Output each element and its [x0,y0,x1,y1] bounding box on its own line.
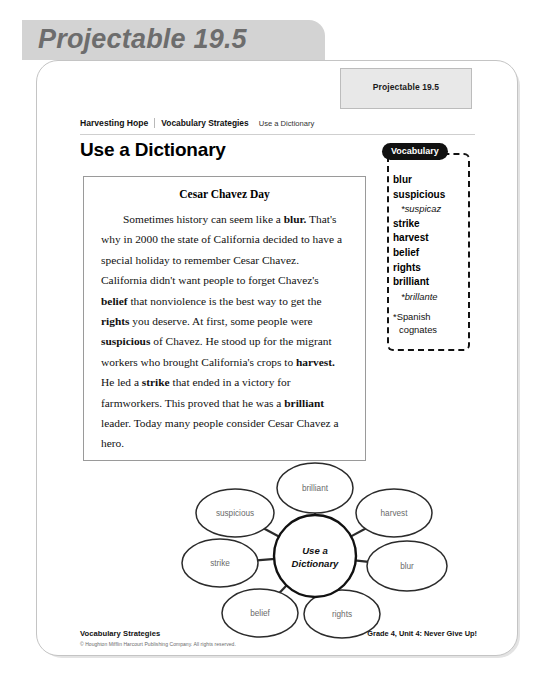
passage-vocab-term: suspicious [101,335,150,347]
word-web-connector [350,528,366,537]
passage-box: Cesar Chavez Day Sometimes history can s… [83,176,366,461]
word-web-connector [257,559,275,560]
vocabulary-word-list: blursuspicious*suspicazstrikeharvestbeli… [393,173,473,304]
vocabulary-footnote-line2: cognates [393,324,437,337]
vocabulary-word: suspicious [393,188,473,203]
vocabulary-cognate: *brillante [393,290,473,305]
banner-title: Projectable 19.5 [38,24,247,55]
word-web-center-label-line1: Use a [302,545,328,556]
word-web-node[interactable]: suspicious [196,489,274,537]
word-web-center-node[interactable]: Use aDictionary [274,515,356,597]
vocabulary-footnote: *Spanish cognates [393,311,437,336]
breadcrumb-item-topic[interactable]: Use a Dictionary [255,119,315,128]
passage-vocab-term: strike [142,376,170,388]
vocabulary-pill-label: Vocabulary [382,143,448,160]
passage-vocab-term: brilliant [284,397,324,409]
page-title: Use a Dictionary [80,139,226,161]
vocabulary-word: strike [393,217,473,232]
passage-vocab-term: rights [101,315,129,327]
word-web-node-label: rights [332,610,352,619]
projectable-banner: Projectable 19.5 [22,20,325,60]
breadcrumb-item-strategy[interactable]: Vocabulary Strategies [155,118,254,128]
projectable-tab-label: Projectable 19.5 [341,82,471,92]
footer-title: Vocabulary Strategies [80,629,236,638]
vocabulary-word: harvest [393,231,473,246]
projectable-tab: Projectable 19.5 [340,68,472,109]
word-web-node-label: harvest [381,509,409,518]
passage-vocab-term: harvest. [296,356,335,368]
breadcrumb-item-lesson[interactable]: Harvesting Hope [80,118,154,128]
passage-title: Cesar Chavez Day [101,188,348,200]
passage-text-run: leader. Today many people consider Cesar… [101,417,338,449]
passage-text-run: you deserve. At first, some people were [129,315,312,327]
word-web-node[interactable]: brilliant [277,463,353,513]
vocabulary-word: brilliant [393,275,473,290]
footer-copyright: © Houghton Mifflin Harcourt Publishing C… [80,641,236,647]
passage-vocab-term: belief [101,295,128,307]
word-web-node[interactable]: strike [182,539,258,587]
word-web-node-label: belief [250,609,270,618]
word-web-connector [263,528,279,537]
word-web-node-label: suspicious [216,509,254,518]
breadcrumb: Harvesting Hope Vocabulary Strategies Us… [80,118,475,135]
word-web-svg: brilliantsuspiciousharveststrikeblurbeli… [157,456,457,641]
vocabulary-word: rights [393,261,473,276]
word-web-center-circle [274,515,356,597]
word-web-center-label-line2: Dictionary [292,558,340,569]
footer-left: Vocabulary Strategies © Houghton Mifflin… [80,629,236,647]
vocabulary-footnote-line1: *Spanish [393,311,437,324]
word-web-diagram: brilliantsuspiciousharveststrikeblurbeli… [157,456,457,641]
word-web-node-label: blur [400,562,414,571]
vocabulary-word: blur [393,173,473,188]
word-web-node[interactable]: harvest [356,489,432,537]
vocabulary-panel: Vocabulary blursuspicious*suspicazstrike… [382,143,474,358]
word-web-node[interactable]: blur [367,541,447,591]
vocabulary-cognate: *suspicaz [393,202,473,217]
vocabulary-word: belief [393,246,473,261]
word-web-node-label: strike [210,559,230,568]
passage-body: Sometimes history can seem like a blur. … [101,209,348,454]
passage-text-run: He led a [101,376,142,388]
passage-text-run: Sometimes history can seem like a [123,213,284,225]
word-web-node-label: brilliant [302,484,329,493]
footer-right: Grade 4, Unit 4: Never Give Up! [367,629,477,638]
projectable-page: Harvesting Hope Vocabulary Strategies Us… [36,60,518,656]
passage-vocab-term: blur. [284,213,307,225]
passage-text-run: that nonviolence is the best way to get … [128,295,322,307]
